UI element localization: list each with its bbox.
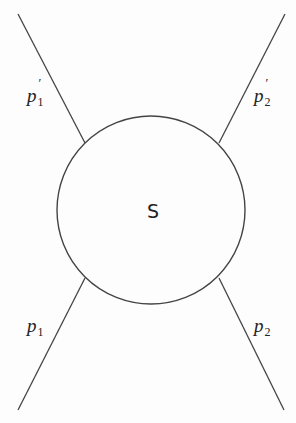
- leg-p2: [219, 278, 284, 410]
- label-sub: 1: [38, 95, 44, 109]
- label-p1: p1: [27, 316, 44, 338]
- label-sub: 2: [265, 95, 271, 109]
- label-base: p: [254, 85, 264, 106]
- leg-p2-prime: [219, 14, 285, 143]
- label-p2: p2: [254, 316, 271, 338]
- label-prime: ′: [39, 76, 42, 89]
- label-base: p: [27, 85, 37, 106]
- label-prime: ′: [266, 76, 269, 89]
- scattering-diagram: S p′1 p′2 p1 p2: [0, 0, 296, 423]
- label-base: p: [27, 315, 37, 336]
- leg-p1: [18, 278, 85, 410]
- leg-p1-prime: [18, 14, 85, 143]
- label-sub: 2: [265, 325, 271, 339]
- s-label: S: [147, 200, 159, 222]
- label-sub: 1: [38, 325, 44, 339]
- label-p1-prime: p′1: [27, 86, 44, 108]
- label-base: p: [254, 315, 264, 336]
- label-p2-prime: p′2: [254, 86, 271, 108]
